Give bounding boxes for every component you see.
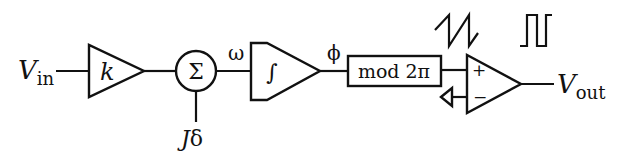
gain-label: k bbox=[100, 58, 115, 86]
integrator-block bbox=[251, 43, 320, 100]
square-waveform-icon bbox=[520, 15, 552, 46]
summer-label: Σ bbox=[188, 59, 204, 84]
integrator-label: ∫ bbox=[266, 60, 278, 85]
comparator-plus-label: + bbox=[472, 60, 486, 80]
reference-ground-icon bbox=[441, 88, 452, 106]
gain-block bbox=[89, 45, 144, 97]
phi-label: ϕ bbox=[327, 41, 341, 65]
sawtooth-waveform-icon bbox=[435, 15, 478, 46]
comparator-minus-label: − bbox=[473, 87, 487, 107]
mod-2pi-label: mod 2π bbox=[358, 60, 430, 82]
omega-label: ω bbox=[228, 41, 244, 65]
disturbance-label: Jδ bbox=[177, 126, 203, 151]
pll-block-diagram: Vin k Σ Jδ ω ∫ ϕ mod 2π + − Vout bbox=[0, 0, 618, 155]
output-label: Vout bbox=[557, 69, 606, 103]
input-label: Vin bbox=[18, 55, 55, 89]
